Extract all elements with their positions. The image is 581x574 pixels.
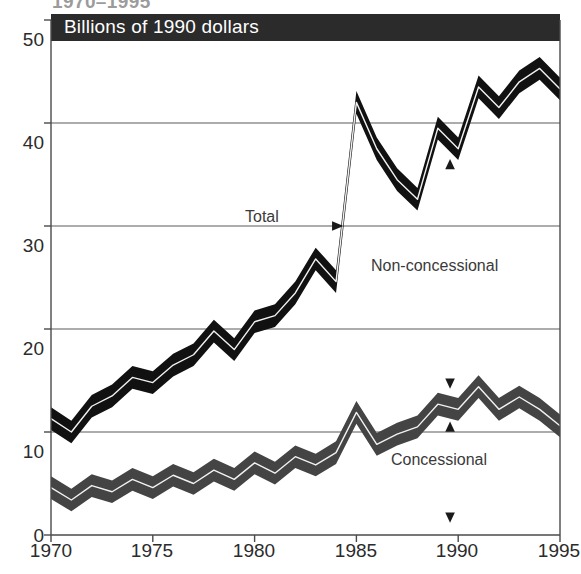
x-tick-1975: 1975	[117, 541, 187, 560]
axis-pointer-icon	[445, 513, 455, 523]
x-tick-1990: 1990	[422, 541, 492, 560]
y-tick-20: 20	[2, 339, 44, 358]
x-tick-1995: 1995	[524, 541, 581, 560]
x-tick-1985: 1985	[321, 541, 391, 560]
y-tick-40: 40	[2, 133, 44, 152]
data-bands-layer	[51, 57, 560, 511]
y-tick-30: 30	[2, 236, 44, 255]
annotation-non-concessional: Non-concessional	[371, 258, 498, 274]
grid-layer	[51, 123, 560, 432]
series-centerline-total	[51, 68, 560, 432]
chart-figure: 1970–1995 Billions of 1990 dollars 50 40…	[0, 0, 581, 574]
total-pointer-icon	[332, 221, 343, 231]
marker-layer	[332, 159, 455, 523]
series-band-total	[51, 57, 560, 443]
clipped-heading: 1970–1995	[52, 0, 151, 13]
chart-banner: Billions of 1990 dollars	[51, 14, 560, 41]
concessional-upper-pointer-icon	[445, 379, 455, 389]
x-tick-1970: 1970	[16, 541, 86, 560]
plot-area	[0, 0, 581, 574]
y-tick-50: 50	[2, 30, 44, 49]
non-concessional-pointer-icon	[445, 159, 455, 169]
concessional-lower-pointer-icon	[445, 422, 455, 432]
chart-banner-label: Billions of 1990 dollars	[64, 16, 259, 38]
annotation-total: Total	[245, 209, 279, 225]
series-band-concessional	[51, 375, 560, 511]
series-centerline-concessional	[51, 387, 560, 500]
x-tick-1980: 1980	[219, 541, 289, 560]
annotation-concessional: Concessional	[391, 452, 487, 468]
y-tick-10: 10	[2, 442, 44, 461]
